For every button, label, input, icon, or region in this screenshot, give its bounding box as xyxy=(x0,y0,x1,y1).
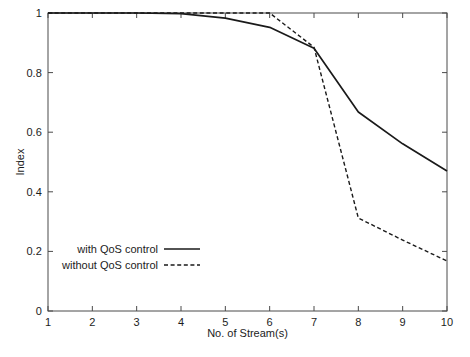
y-axis-title: Index xyxy=(14,149,26,176)
y-tick-label: 1 xyxy=(10,7,42,19)
series-line-1 xyxy=(48,13,447,171)
legend-line-sample-solid xyxy=(163,244,201,254)
y-tick-label: 0.4 xyxy=(10,186,42,198)
legend-entry: without QoS control xyxy=(62,258,201,272)
series-line-2 xyxy=(48,13,447,261)
chart-figure: 12345678910 00.20.40.60.81 No. of Stream… xyxy=(0,0,470,357)
y-tick-label: 0.6 xyxy=(10,126,42,138)
x-tick-label: 3 xyxy=(134,316,140,328)
x-tick-label: 10 xyxy=(441,316,453,328)
x-tick-label: 8 xyxy=(355,316,361,328)
y-tick-label: 0.2 xyxy=(10,245,42,257)
y-tick-label: 0 xyxy=(10,305,42,317)
y-tick-label: 0.8 xyxy=(10,67,42,79)
legend-line-sample-dashed xyxy=(163,260,201,270)
legend-label: without QoS control xyxy=(62,259,158,271)
x-tick-label: 9 xyxy=(400,316,406,328)
x-tick-label: 4 xyxy=(178,316,184,328)
x-tick-label: 2 xyxy=(89,316,95,328)
legend-entry: with QoS control xyxy=(62,242,201,256)
legend-label: with QoS control xyxy=(77,243,158,255)
x-tick-label: 1 xyxy=(45,316,51,328)
plot-canvas xyxy=(0,0,470,357)
x-axis-title: No. of Stream(s) xyxy=(207,327,288,339)
data-series-layer xyxy=(48,13,447,261)
x-tick-label: 7 xyxy=(311,316,317,328)
chart-legend: with QoS controlwithout QoS control xyxy=(62,242,201,272)
